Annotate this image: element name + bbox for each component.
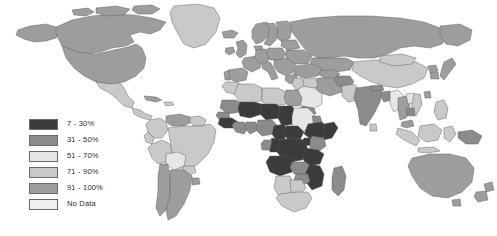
legend-label-51-70: 51 - 70%: [67, 152, 99, 160]
legend-swatch-51-70: [29, 151, 58, 162]
legend-swatch-31-50: [29, 135, 58, 146]
country-nepal: [370, 85, 384, 91]
legend-item: 71 - 90%: [29, 164, 141, 180]
choropleth-map-figure: 7 - 30% 31 - 50% 51 - 70% 71 - 90% 91 - …: [0, 0, 497, 236]
country-taiwan: [424, 91, 431, 98]
country-tasmania: [452, 199, 461, 206]
legend-item: 31 - 50%: [29, 132, 141, 148]
legend-label-7-30: 7 - 30%: [67, 120, 94, 128]
country-gabon: [261, 140, 272, 150]
country-south-korea: [430, 72, 439, 79]
legend-label-31-50: 31 - 50%: [67, 136, 99, 144]
country-turkey: [294, 64, 322, 78]
country-egypt: [284, 90, 302, 106]
legend-item: No Data: [29, 196, 141, 212]
country-cambodia: [406, 108, 415, 116]
legend-item: 51 - 70%: [29, 148, 141, 164]
country-portugal: [224, 71, 230, 80]
legend-item: 91 - 100%: [29, 180, 141, 196]
legend-swatch-91-100: [29, 183, 58, 194]
country-poland: [267, 48, 286, 60]
country-libya: [262, 88, 286, 106]
legend-label-91-100: 91 - 100%: [67, 184, 103, 192]
country-new-zealand-north: [484, 182, 494, 192]
legend-label-71-90: 71 - 90%: [67, 168, 99, 176]
country-uruguay: [192, 178, 200, 185]
legend-swatch-7-30: [29, 119, 58, 130]
country-sri-lanka: [370, 124, 377, 131]
legend-swatch-no-data: [29, 199, 58, 210]
country-hispaniola: [164, 102, 174, 106]
legend-swatch-71-90: [29, 167, 58, 178]
legend-item: 7 - 30%: [29, 116, 141, 132]
map-legend: 7 - 30% 31 - 50% 51 - 70% 71 - 90% 91 - …: [29, 116, 141, 212]
legend-label-no-data: No Data: [67, 200, 96, 208]
